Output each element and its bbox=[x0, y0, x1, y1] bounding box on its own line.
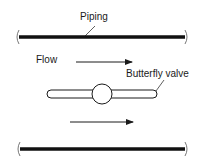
valve-shaft-icon bbox=[92, 84, 112, 104]
valve-leader-line bbox=[156, 80, 164, 91]
piping-label: Piping bbox=[80, 11, 108, 22]
valve-label: Butterfly valve bbox=[126, 68, 189, 79]
top-pipe-break-left-icon bbox=[17, 30, 19, 44]
top-pipe-wall bbox=[17, 30, 187, 44]
butterfly-valve bbox=[47, 84, 157, 104]
butterfly-valve-diagram: Piping Flow Butterfly valve bbox=[0, 0, 202, 165]
flow-label: Flow bbox=[36, 54, 58, 65]
piping-leader-line bbox=[85, 26, 95, 36]
bottom-pipe-wall bbox=[18, 142, 187, 156]
top-pipe-break-right-icon bbox=[185, 30, 187, 44]
bottom-pipe-break-right-icon bbox=[185, 142, 187, 156]
bottom-pipe-break-left-icon bbox=[18, 142, 20, 156]
